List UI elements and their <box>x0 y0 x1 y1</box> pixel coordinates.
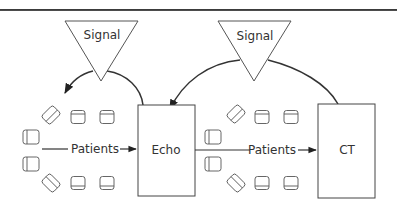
chair-icon <box>226 173 246 193</box>
chair-icon <box>23 157 39 171</box>
chair-icon <box>255 177 269 190</box>
chair-icon <box>100 177 114 190</box>
feedback-link-echo-to-signal-1 <box>107 71 143 105</box>
feedback-arrow-to-waiting-area-1 <box>65 71 93 93</box>
flow-2-label: Patients <box>248 143 296 157</box>
chair-icon <box>205 157 221 171</box>
chair-icon <box>284 177 298 190</box>
flow-patients-to-echo: Patients <box>42 142 136 156</box>
chair-icon <box>205 130 221 144</box>
signal-1-label: Signal <box>84 28 121 42</box>
chair-icon <box>226 104 246 124</box>
chair-icon <box>41 105 61 125</box>
station-ct: CT <box>318 104 375 198</box>
feedback-link-ct-to-signal-2 <box>268 60 338 104</box>
chair-icon <box>71 177 85 190</box>
signal-1: Signal <box>65 21 138 81</box>
flow-patients-to-ct: Patients <box>195 143 316 157</box>
ct-label: CT <box>339 143 355 157</box>
patient-flow-diagram: Signal Signal Echo CT Patients Patients <box>0 0 397 209</box>
chair-icon <box>71 111 85 124</box>
flow-1-label: Patients <box>71 142 119 156</box>
chair-icon <box>23 130 39 144</box>
chair-icon <box>284 111 298 124</box>
chair-icon <box>100 111 114 124</box>
station-echo: Echo <box>138 105 195 196</box>
chair-icon <box>41 173 61 193</box>
signal-2: Signal <box>218 21 291 81</box>
echo-label: Echo <box>151 143 180 157</box>
chair-icon <box>255 111 269 124</box>
feedback-arrow-to-echo <box>170 60 240 109</box>
signal-2-label: Signal <box>237 29 274 43</box>
